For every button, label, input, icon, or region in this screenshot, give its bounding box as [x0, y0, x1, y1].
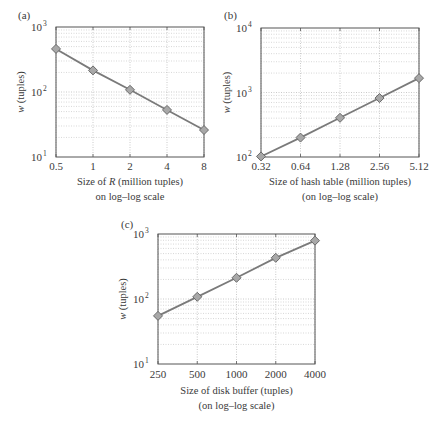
data-point-diamond-icon [336, 113, 345, 122]
x-axis-label: Size of R (million tuples) [77, 176, 184, 188]
x-tick-label: 2 [127, 160, 133, 172]
data-point-diamond-icon [311, 236, 320, 245]
y-tick-label: 10 [133, 293, 145, 305]
panel-label: (b) [224, 9, 237, 22]
data-point-diamond-icon [232, 273, 241, 282]
x-tick-label: 4 [164, 160, 170, 172]
data-point-diamond-icon [296, 133, 305, 142]
svg-text:4: 4 [248, 20, 252, 29]
data-point-diamond-icon [154, 311, 163, 320]
data-point-diamond-icon [193, 292, 202, 301]
chart-panel-c: 250500100020004000101102103w (tuples)Siz… [117, 218, 327, 412]
svg-text:3: 3 [43, 19, 47, 28]
x-tick-label: 1.28 [330, 160, 350, 172]
figure: 0.51248101102103w (tuples)Size of R (mil… [0, 0, 448, 426]
svg-text:2: 2 [43, 84, 47, 93]
data-point-diamond-icon [415, 74, 424, 83]
x-tick-label: 0.32 [251, 160, 270, 172]
x-axis-label: Size of hash table (million tuples) [269, 176, 412, 188]
x-tick-label: 2000 [265, 368, 288, 380]
svg-text:1: 1 [145, 356, 149, 365]
svg-text:3: 3 [145, 226, 149, 235]
chart-panel-b: 0.320.641.282.565.12102103104w (tuples)S… [221, 9, 429, 203]
x-tick-label: 500 [189, 368, 206, 380]
x-tick-label: 5.12 [409, 160, 428, 172]
y-tick-label: 10 [236, 151, 248, 163]
chart-panel-a: 0.51248101102103w (tuples)Size of R (mil… [15, 9, 209, 202]
y-tick-label: 10 [133, 228, 145, 240]
x-tick-label: 4000 [304, 368, 327, 380]
y-tick-label: 10 [31, 151, 43, 163]
y-tick-label: 10 [31, 21, 43, 33]
data-point-diamond-icon [271, 253, 280, 262]
y-tick-label: 10 [236, 87, 248, 99]
x-axis-label: Size of disk buffer (tuples) [180, 385, 293, 397]
svg-text:3: 3 [248, 85, 252, 94]
x-axis-label: (on log–log scale) [302, 191, 378, 203]
y-tick-label: 10 [31, 86, 43, 98]
panel-label: (c) [121, 218, 134, 231]
x-tick-label: 0.64 [291, 160, 311, 172]
data-point-diamond-icon [126, 85, 135, 94]
grid-lines [158, 234, 315, 364]
plot-frame [261, 28, 419, 157]
data-point-diamond-icon [52, 44, 61, 53]
y-axis-label: w (tuples) [221, 71, 233, 113]
x-tick-label: 1000 [226, 368, 249, 380]
y-tick-label: 10 [133, 358, 145, 370]
x-axis-label: (on log–log scale) [199, 400, 275, 412]
grid-lines [261, 28, 419, 157]
y-axis-label: w (tuples) [15, 71, 27, 113]
x-tick-label: 250 [150, 368, 167, 380]
x-tick-label: 8 [201, 160, 207, 172]
data-point-diamond-icon [375, 94, 384, 103]
x-tick-label: 0.5 [49, 160, 63, 172]
x-axis-label: on log–log scale [96, 191, 165, 202]
y-tick-label: 10 [236, 22, 248, 34]
svg-text:2: 2 [145, 291, 149, 300]
x-tick-label: 2.56 [370, 160, 390, 172]
panel-label: (a) [18, 9, 31, 22]
svg-text:2: 2 [248, 149, 252, 158]
svg-text:1: 1 [43, 149, 47, 158]
data-point-diamond-icon [163, 105, 172, 114]
y-axis-label: w (tuples) [117, 278, 129, 320]
x-tick-label: 1 [90, 160, 96, 172]
data-point-diamond-icon [200, 126, 209, 135]
data-point-diamond-icon [89, 66, 98, 75]
